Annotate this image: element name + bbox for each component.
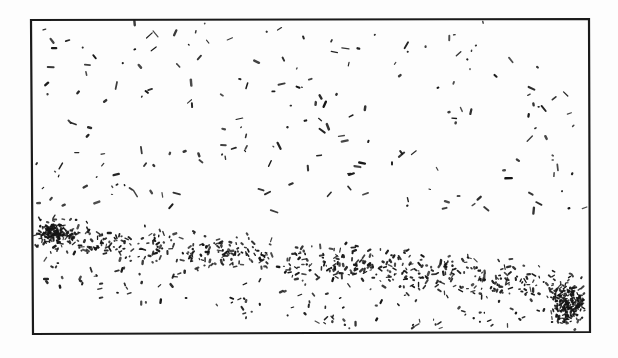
figure-root [0, 0, 618, 358]
particle-distribution-figure [0, 0, 618, 358]
